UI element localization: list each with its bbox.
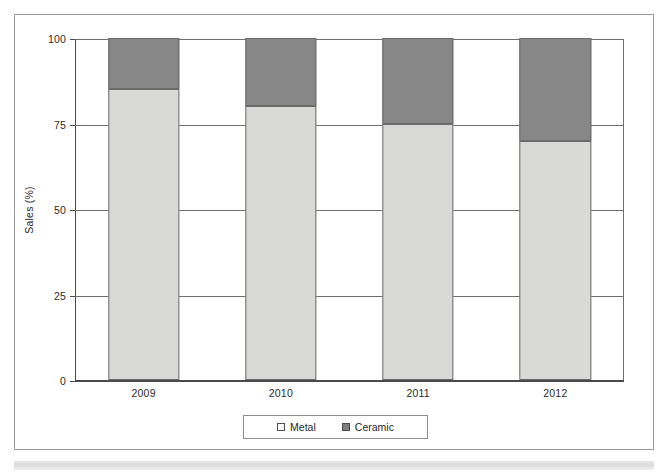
bar-group-2010 — [212, 39, 349, 380]
bar-stack-2011[interactable] — [382, 39, 453, 380]
x-tick-label-2010: 2010 — [269, 387, 293, 399]
x-tick-label-2012: 2012 — [543, 387, 567, 399]
x-tick-label-2009: 2009 — [132, 387, 156, 399]
bar-segment-ceramic-2011[interactable] — [382, 38, 453, 124]
bar-group-2012 — [487, 39, 624, 380]
bar-segment-metal-2012[interactable] — [520, 141, 591, 380]
y-tick-label-75: 75 — [54, 119, 66, 131]
legend-item-metal[interactable]: Metal — [277, 421, 316, 433]
bar-group-2009 — [75, 39, 212, 380]
bar-segment-ceramic-2012[interactable] — [520, 38, 591, 141]
plot-area: 1007550250 — [75, 39, 624, 381]
bar-group-2011 — [350, 39, 487, 380]
bar-segment-metal-2011[interactable] — [382, 124, 453, 381]
bar-stack-2010[interactable] — [245, 39, 316, 380]
bar-segment-metal-2010[interactable] — [245, 106, 316, 380]
gridline-0 — [75, 381, 624, 382]
bar-segment-ceramic-2010[interactable] — [245, 38, 316, 106]
legend-swatch-metal-icon — [277, 423, 285, 431]
bar-stack-2009[interactable] — [108, 39, 179, 380]
legend-label-metal: Metal — [290, 421, 316, 433]
bar-segment-metal-2009[interactable] — [108, 89, 179, 380]
x-tick-label-2011: 2011 — [406, 387, 429, 399]
y-tick-label-25: 25 — [54, 290, 66, 302]
bar-segment-ceramic-2009[interactable] — [108, 38, 179, 89]
legend-label-ceramic: Ceramic — [355, 421, 394, 433]
y-tick-label-0: 0 — [60, 375, 66, 387]
legend-item-ceramic[interactable]: Ceramic — [342, 421, 394, 433]
y-tick-mark-0 — [70, 381, 75, 382]
page-edge-artifact — [14, 461, 654, 470]
y-tick-label-100: 100 — [48, 33, 66, 45]
y-tick-label-50: 50 — [54, 204, 66, 216]
bar-stack-2012[interactable] — [520, 39, 591, 380]
stacked-bar-chart: Sales (%) 1007550250 2009201020112012 Me… — [15, 15, 655, 451]
chart-legend: MetalCeramic — [243, 415, 428, 439]
legend-swatch-ceramic-icon — [342, 423, 350, 431]
figure-frame: Sales (%) 1007550250 2009201020112012 Me… — [14, 14, 654, 450]
y-axis-title: Sales (%) — [23, 186, 35, 233]
